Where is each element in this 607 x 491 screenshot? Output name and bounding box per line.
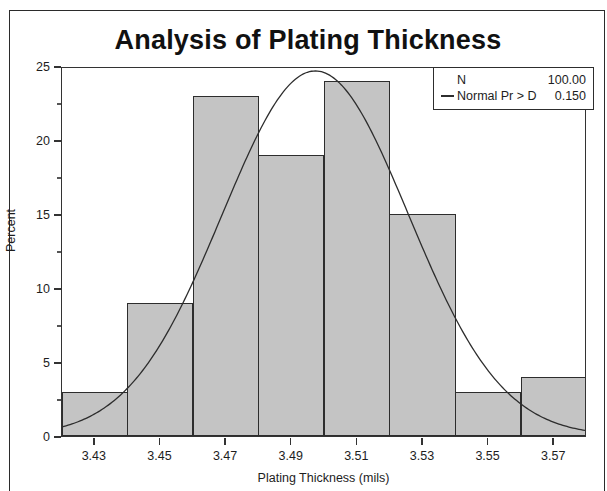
y-axis-tick-label: 15 [24, 208, 50, 222]
histogram-bar [127, 303, 193, 436]
legend: N100.00Normal Pr > D0.150 [433, 67, 594, 110]
y-axis-minor-tick [57, 325, 61, 326]
y-axis-tick-label: 25 [24, 60, 50, 74]
x-axis-tick [421, 438, 422, 445]
y-axis-tick-label: 10 [24, 282, 50, 296]
y-axis-tick-label: 20 [24, 134, 50, 148]
legend-value: 0.150 [555, 88, 586, 104]
x-axis-tick [224, 438, 225, 445]
y-axis-title: Percent [4, 209, 18, 252]
y-axis-tick [54, 288, 61, 289]
x-axis-tick-label: 3.47 [200, 449, 250, 463]
histogram-bar [193, 96, 259, 436]
histogram-bar [324, 81, 390, 436]
y-axis-tick [54, 436, 61, 437]
page-title: Analysis of Plating Thickness [10, 25, 606, 56]
y-axis-tick [54, 140, 61, 141]
legend-row: Normal Pr > D0.150 [441, 88, 586, 104]
x-axis-tick [356, 438, 357, 445]
x-axis-tick-label: 3.45 [134, 449, 184, 463]
y-axis-minor-tick [57, 251, 61, 252]
legend-row: N100.00 [441, 72, 586, 88]
y-axis-tick [54, 214, 61, 215]
x-axis-tick [93, 438, 94, 445]
x-axis-tick [552, 438, 553, 445]
y-axis-minor-tick [57, 177, 61, 178]
x-axis-tick-label: 3.55 [463, 449, 513, 463]
y-axis-tick-label: 5 [24, 356, 50, 370]
x-axis-title: Plating Thickness (mils) [61, 471, 586, 485]
legend-label: Normal Pr > D [457, 88, 555, 104]
y-axis-tick [54, 66, 61, 67]
histogram-bar [258, 155, 324, 436]
x-axis-tick-label: 3.57 [528, 449, 578, 463]
x-axis-tick-label: 3.43 [69, 449, 119, 463]
legend-value: 100.00 [548, 72, 586, 88]
histogram-bar [455, 392, 521, 436]
legend-label: N [457, 72, 548, 88]
x-axis-tick [487, 438, 488, 445]
y-axis-tick-label: 0 [24, 430, 50, 444]
y-axis-tick [54, 362, 61, 363]
cut-off-text-sliver [0, 0, 607, 5]
graph-frame: Analysis of Plating Thickness Percent Pl… [9, 10, 605, 491]
x-axis-tick-label: 3.53 [397, 449, 447, 463]
y-axis-minor-tick [57, 399, 61, 400]
y-axis-minor-tick [57, 103, 61, 104]
x-axis-tick [290, 438, 291, 445]
plot-area [61, 67, 586, 437]
x-axis-tick-label: 3.51 [331, 449, 381, 463]
histogram-bar [389, 214, 455, 436]
x-axis-tick [159, 438, 160, 445]
histogram-screenshot: Analysis of Plating Thickness Percent Pl… [0, 0, 607, 491]
histogram-bar [62, 392, 128, 436]
histogram-bar [521, 377, 586, 436]
legend-line-swatch-icon [441, 95, 454, 96]
x-axis-tick-label: 3.49 [266, 449, 316, 463]
